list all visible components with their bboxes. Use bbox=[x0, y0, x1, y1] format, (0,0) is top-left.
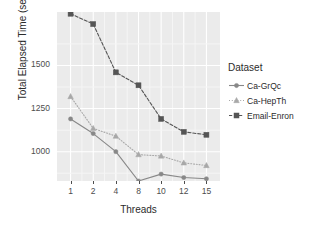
data-point-square bbox=[234, 113, 239, 118]
circle-marker-icon bbox=[228, 78, 245, 93]
legend-item-label: Ca-GrQc bbox=[245, 81, 281, 91]
x-tick-mark bbox=[71, 181, 72, 184]
square-marker-icon bbox=[228, 108, 245, 123]
legend-item-label: Ca-HepTh bbox=[245, 96, 286, 106]
x-tick-mark bbox=[206, 181, 207, 184]
data-point-triangle bbox=[234, 98, 240, 103]
x-tick-label: 1 bbox=[59, 186, 83, 196]
legend-item-label: Email-Enron bbox=[245, 111, 294, 121]
x-tick-mark bbox=[93, 181, 94, 184]
legend: Dataset Ca-GrQcCa-HepThEmail-Enron bbox=[228, 62, 308, 123]
x-tick-mark bbox=[116, 181, 117, 184]
legend-title: Dataset bbox=[228, 62, 308, 73]
legend-item-ca-hepth[interactable]: Ca-HepTh bbox=[228, 93, 308, 108]
x-tick-label: 15 bbox=[194, 186, 218, 196]
x-tick-mark bbox=[184, 181, 185, 184]
x-tick-mark bbox=[161, 181, 162, 184]
x-tick-mark bbox=[139, 181, 140, 184]
legend-item-ca-grqc[interactable]: Ca-GrQc bbox=[228, 78, 308, 93]
x-tick-label: 2 bbox=[81, 186, 105, 196]
x-tick-label: 4 bbox=[104, 186, 128, 196]
data-point-circle bbox=[234, 83, 238, 87]
x-axis-title: Threads bbox=[57, 204, 220, 215]
x-tick-label: 8 bbox=[127, 186, 151, 196]
line-chart: Total Elapsed Time (sec) 100012501500 12… bbox=[0, 0, 310, 227]
legend-items: Ca-GrQcCa-HepThEmail-Enron bbox=[228, 78, 308, 123]
legend-item-email-enron[interactable]: Email-Enron bbox=[228, 108, 308, 123]
triangle-marker-icon bbox=[228, 93, 245, 108]
x-tick-label: 10 bbox=[149, 186, 173, 196]
x-tick-label: 12 bbox=[172, 186, 196, 196]
